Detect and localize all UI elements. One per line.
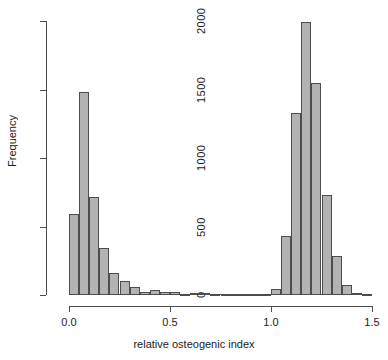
histogram-bar — [69, 214, 79, 295]
x-axis-tick-label: 1.5 — [364, 316, 379, 328]
plot-baseline — [69, 294, 372, 295]
histogram-bar — [322, 195, 332, 295]
x-axis-tick-label: 1.0 — [263, 316, 278, 328]
histogram-bar — [109, 273, 119, 295]
histogram-bar — [281, 236, 291, 295]
histogram-bar — [291, 113, 301, 295]
histogram-bar — [89, 197, 99, 295]
x-axis-tick — [69, 306, 70, 312]
x-axis-tick-label: 0.0 — [61, 316, 76, 328]
x-axis-tick — [372, 306, 373, 312]
histogram-bar — [99, 248, 109, 295]
histogram-bar — [311, 83, 321, 295]
histogram-plot: 0500100015002000 Frequency 0.00.51.01.5 … — [0, 0, 388, 360]
x-axis-tick — [271, 306, 272, 312]
histogram-bar — [301, 22, 311, 295]
histogram-bar — [332, 256, 342, 295]
x-axis-line — [69, 306, 372, 307]
x-axis-label: relative osteogenic index — [0, 338, 388, 350]
x-axis-tick — [170, 306, 171, 312]
x-axis-tick-label: 0.5 — [162, 316, 177, 328]
histogram-bar — [79, 92, 89, 295]
histogram-bar — [120, 281, 130, 295]
